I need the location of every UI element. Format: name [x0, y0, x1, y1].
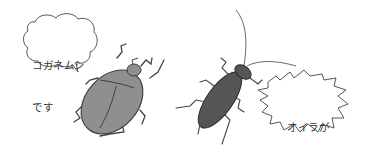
beetle-speech-line2: です	[32, 100, 85, 114]
beetle-speech-text: コガネムシ です	[32, 30, 85, 128]
cockroach-speech-text: オイラが コガネムシ!	[287, 92, 344, 157]
cockroach-speech-line1: オイラが	[287, 120, 344, 134]
cockroach-antennae	[236, 10, 296, 66]
cockroach-icon	[190, 62, 253, 135]
beetle-speech-line1: コガネムシ	[32, 58, 85, 72]
